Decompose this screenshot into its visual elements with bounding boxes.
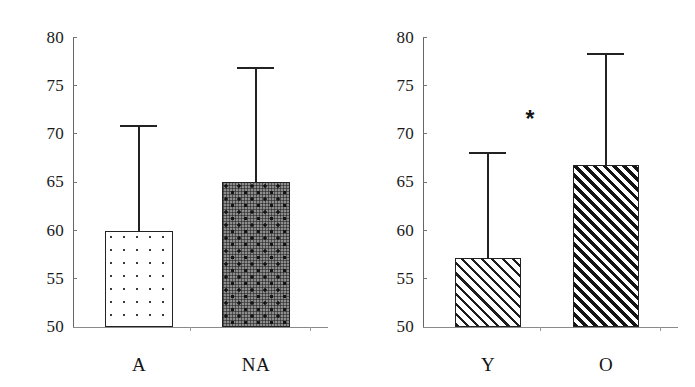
x-axis-tick-left-2	[310, 327, 311, 331]
significance-asterisk: *	[510, 108, 550, 131]
error-bar-cap-y	[469, 152, 506, 154]
y-tick-label-65-left: 65	[30, 173, 64, 190]
y-tick-label-55-left: 55	[30, 270, 64, 287]
error-bar-stem-a	[138, 125, 140, 232]
error-bar-stem-y	[487, 152, 489, 259]
y-tick-mark-65-left	[73, 182, 77, 183]
y-tick-mark-55-right	[423, 278, 427, 279]
y-tick-label-65-right: 65	[380, 173, 414, 190]
y-tick-label-50-left: 50	[30, 318, 64, 335]
bar-na	[222, 182, 290, 327]
x-category-label-na: NA	[221, 355, 291, 374]
bar-o	[573, 165, 639, 327]
y-tick-label-60-left: 60	[30, 222, 64, 239]
chart-panel-right: 80 75 70 65 60 55 50 * Y O	[348, 0, 695, 387]
y-tick-mark-75-left	[73, 85, 77, 86]
x-category-label-y: Y	[453, 355, 523, 374]
x-axis-tick-right-2	[660, 327, 661, 331]
error-bar-cap-o	[587, 53, 624, 55]
error-bar-cap-a	[120, 125, 157, 127]
y-tick-mark-70-left	[73, 133, 77, 134]
y-tick-label-70-left: 70	[30, 125, 64, 142]
error-bar-stem-na	[255, 67, 257, 183]
y-tick-label-60-right: 60	[380, 222, 414, 239]
y-tick-label-75-left: 75	[30, 77, 64, 94]
y-tick-mark-60-right	[423, 230, 427, 231]
y-tick-label-80-right: 80	[380, 29, 414, 46]
x-category-label-a: A	[104, 355, 174, 374]
bar-a	[105, 231, 173, 327]
y-tick-mark-80-left	[73, 37, 77, 38]
y-tick-label-50-right: 50	[380, 318, 414, 335]
x-axis-baseline-right	[423, 327, 678, 328]
y-tick-mark-55-left	[73, 278, 77, 279]
chart-panel-left: 80 75 70 65 60 55 50 A NA	[0, 0, 348, 387]
error-bar-stem-o	[605, 53, 607, 166]
y-tick-label-70-right: 70	[380, 125, 414, 142]
y-tick-mark-70-right	[423, 133, 427, 134]
y-tick-mark-60-left	[73, 230, 77, 231]
y-tick-label-80-left: 80	[30, 29, 64, 46]
y-tick-mark-80-right	[423, 37, 427, 38]
y-tick-mark-65-right	[423, 182, 427, 183]
bar-y	[455, 258, 521, 327]
y-tick-label-75-right: 75	[380, 77, 414, 94]
x-axis-tick-left-1	[190, 327, 191, 331]
x-category-label-o: O	[571, 355, 641, 374]
y-tick-label-55-right: 55	[380, 270, 414, 287]
x-axis-tick-right-1	[540, 327, 541, 331]
figure-container: 80 75 70 65 60 55 50 A NA 8	[0, 0, 695, 387]
y-tick-mark-75-right	[423, 85, 427, 86]
x-axis-baseline-left	[73, 327, 328, 328]
error-bar-cap-na	[237, 67, 274, 69]
